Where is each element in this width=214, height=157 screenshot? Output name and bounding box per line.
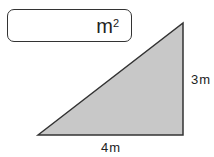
base-label: 4m <box>101 140 121 155</box>
right-triangle-figure <box>0 0 214 157</box>
height-label: 3m <box>191 72 211 87</box>
triangle-shape <box>38 23 183 135</box>
